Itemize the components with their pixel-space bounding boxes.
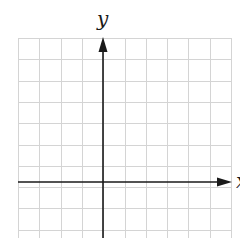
grid-graph	[0, 0, 240, 238]
y-axis-arrow-icon	[99, 37, 108, 52]
y-axis-label: y	[97, 9, 108, 29]
x-axis-label: x	[236, 171, 240, 191]
coordinate-plane: y x	[0, 0, 240, 238]
x-axis-arrow-icon	[217, 178, 232, 187]
grid-lines	[18, 38, 232, 238]
